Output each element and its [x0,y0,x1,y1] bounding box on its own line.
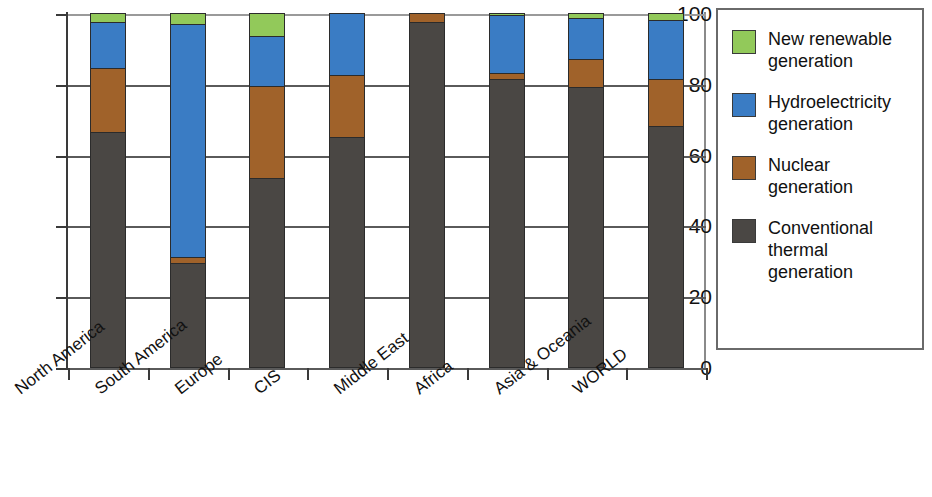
x-axis-label: CIS [251,367,284,399]
gridline [68,85,706,87]
bar-north-america [90,14,126,368]
x-axis-tick-mark [68,368,70,380]
legend-label-line1: Conventional [768,217,912,239]
x-axis-tick-mark [228,368,230,380]
bar-middle-east [409,14,445,368]
bar-segment [90,22,126,69]
bar-segment [489,15,525,74]
legend-item-label: Nucleargeneration [768,154,853,198]
y-axis-tick-mark [56,297,68,299]
legend-item: New renewablegeneration [732,28,912,72]
bar-segment [648,13,684,21]
bar-cis [329,14,365,368]
bar-segment [249,13,285,37]
gridline [68,14,706,16]
bar-segment [170,263,206,368]
gridline [68,297,706,299]
bar-segment [648,79,684,128]
y-axis-tick-mark [56,85,68,87]
legend-item-label: New renewablegeneration [768,28,892,72]
bar-segment [409,22,445,368]
x-axis-tick-mark [467,368,469,380]
legend-item: Hydroelectricitygeneration [732,91,912,135]
stacked-bar-chart: 020406080100 North AmericaSouth AmericaE… [0,0,712,497]
bar-segment [329,13,365,76]
bar-segment [329,137,365,368]
bar-segment [648,20,684,79]
bar-segment [170,13,206,25]
y-axis-tick-mark [56,156,68,158]
bar-segment [249,36,285,87]
bar-segment [568,59,604,88]
bar-segment [409,13,445,23]
legend-label-line1: Hydroelectricity [768,91,891,113]
bar-segment [648,126,684,368]
bar-segment [249,178,285,368]
bar-world [648,14,684,368]
bar-segment [90,68,126,133]
legend-color-swatch [732,30,756,54]
bar-segment [489,79,525,369]
legend-item: Conventionalthermal generation [732,217,912,283]
bar-segment [170,24,206,259]
bar-europe [249,14,285,368]
bar-segment [568,18,604,60]
legend-label-line1: New renewable [768,28,892,50]
legend-label-line2: generation [768,176,853,198]
bar-segment [90,13,126,23]
legend-item-label: Hydroelectricitygeneration [768,91,891,135]
y-axis-tick-mark [56,226,68,228]
legend-color-swatch [732,219,756,243]
bar-africa [489,14,525,368]
plot-region [68,14,706,368]
legend-label-line2: thermal generation [768,239,912,283]
bar-segment [489,13,525,16]
chart-legend: New renewablegenerationHydroelectricityg… [716,8,924,350]
x-axis-tick-mark [387,368,389,380]
gridline [68,226,706,228]
bar-south-america [170,14,206,368]
bar-segment [568,13,604,19]
x-axis-tick-mark [626,368,628,380]
legend-label-line1: Nuclear [768,154,853,176]
x-axis-tick-mark [547,368,549,380]
legend-color-swatch [732,156,756,180]
x-axis-tick-mark [307,368,309,380]
legend-label-line2: generation [768,113,891,135]
x-axis-tick-mark [706,368,708,380]
legend-item: Nucleargeneration [732,154,912,198]
legend-color-swatch [732,93,756,117]
legend-item-label: Conventionalthermal generation [768,217,912,283]
bar-segment [329,75,365,138]
gridline [68,156,706,158]
bar-segment [249,86,285,179]
legend-label-line2: generation [768,50,892,72]
x-axis-tick-mark [148,368,150,380]
y-axis-tick-mark [56,14,68,16]
